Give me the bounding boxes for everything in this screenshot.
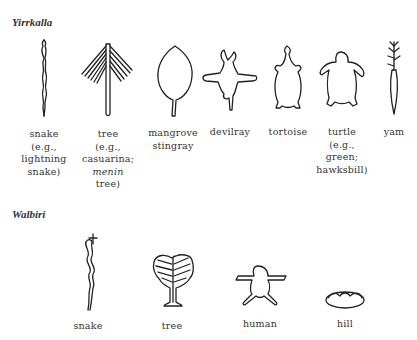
label-mangrove-stingray: mangrove stingray: [148, 127, 198, 152]
label-snake-yirrkalla: snake (e.g., lightning snake): [21, 128, 66, 178]
walbiri-tree-icon: [152, 252, 196, 310]
label-snake-walbiri: snake: [73, 320, 102, 333]
yam-icon: [384, 40, 404, 116]
label-hill: hill: [337, 318, 353, 331]
section-title-yirrkalla: Yirrkalla: [12, 16, 52, 28]
yirrkalla-tree-icon: [80, 42, 136, 118]
label-tree-yirrkalla: tree (e.g., casuarina; menin tree): [82, 128, 134, 191]
turtle-icon: [317, 50, 365, 114]
label-turtle: turtle (e.g., green; hawksbill): [316, 126, 367, 176]
walbiri-snake-icon: [80, 232, 100, 312]
human-icon: [234, 262, 288, 308]
label-human: human: [243, 318, 277, 331]
tortoise-icon: [270, 44, 304, 116]
label-tortoise: tortoise: [269, 126, 308, 139]
section-title-walbiri: Walbiri: [12, 208, 45, 220]
devilray-icon: [200, 48, 260, 114]
label-devilray: devilray: [210, 126, 250, 139]
yirrkalla-snake-icon: [36, 38, 52, 118]
label-tree-walbiri: tree: [162, 320, 182, 333]
hill-icon: [324, 288, 366, 310]
stingray-icon: [155, 44, 195, 118]
label-yam: yam: [384, 126, 405, 139]
